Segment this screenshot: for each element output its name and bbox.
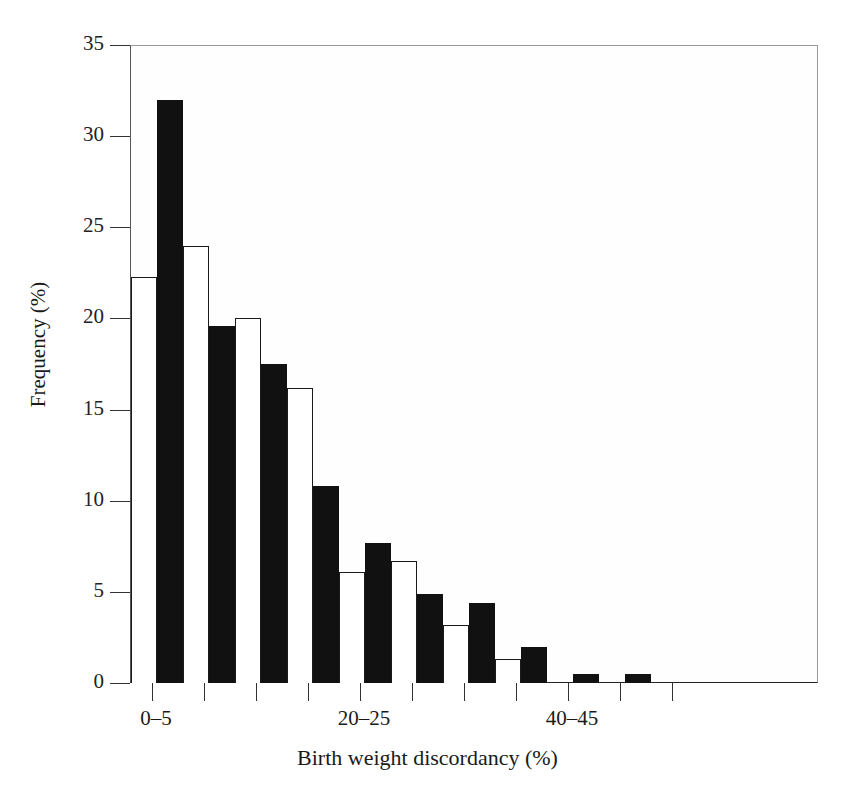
x-axis-tick <box>568 683 569 701</box>
bar-black <box>365 543 391 683</box>
y-axis-tick <box>110 227 130 228</box>
bar-black <box>209 326 235 683</box>
x-axis-tick <box>204 683 205 701</box>
x-axis-tick <box>308 683 309 701</box>
bar-black <box>157 100 183 683</box>
y-axis-tick-label: 0 <box>58 671 104 692</box>
x-axis-tick-label: 0–5 <box>96 706 216 731</box>
y-axis-tick <box>110 318 130 319</box>
x-axis-tick <box>620 683 621 701</box>
x-axis-title: Birth weight discordancy (%) <box>0 745 855 771</box>
x-axis-tick-label: 20–25 <box>304 706 424 731</box>
y-axis-tick <box>110 410 130 411</box>
bar-black <box>573 674 599 683</box>
y-axis-tick <box>110 45 130 46</box>
bar-black <box>417 594 443 683</box>
bar-white <box>183 246 209 683</box>
y-axis-tick-label: 35 <box>58 33 104 54</box>
bar-black <box>313 486 339 683</box>
x-axis-tick <box>360 683 361 701</box>
y-axis-tick-label: 30 <box>58 124 104 145</box>
x-axis-tick <box>516 683 517 701</box>
y-axis-tick <box>110 136 130 137</box>
y-axis-tick-label: 5 <box>58 580 104 601</box>
bar-black <box>469 603 495 683</box>
x-axis-tick <box>412 683 413 701</box>
y-axis-tick-label: 15 <box>58 398 104 419</box>
y-axis-tick <box>110 592 130 593</box>
y-axis-title: Frequency (%) <box>26 215 51 475</box>
bar-black <box>261 364 287 683</box>
x-axis-tick-label: 40–45 <box>512 706 632 731</box>
bar-white <box>287 388 313 683</box>
x-axis-tick <box>672 683 673 701</box>
bar-black <box>625 674 651 683</box>
bar-white <box>235 318 261 683</box>
x-axis-tick <box>152 683 153 701</box>
y-axis-tick-label: 20 <box>58 306 104 327</box>
bar-white <box>131 277 157 683</box>
y-axis-tick-label: 10 <box>58 489 104 510</box>
y-axis-tick <box>110 683 130 684</box>
x-axis-tick <box>256 683 257 701</box>
bar-white <box>339 572 365 683</box>
bar-white <box>391 561 417 683</box>
x-axis-tick <box>464 683 465 701</box>
y-axis-tick <box>110 501 130 502</box>
bar-chart: 05101520253035 Frequency (%) 0–520–2540–… <box>0 0 855 803</box>
bar-black <box>521 647 547 683</box>
bar-white <box>495 659 521 683</box>
bar-white <box>443 625 469 683</box>
y-axis-tick-label: 25 <box>58 215 104 236</box>
